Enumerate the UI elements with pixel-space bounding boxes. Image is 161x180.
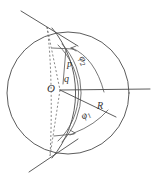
secant-line-lower-left xyxy=(29,139,78,172)
tick-upper-chord xyxy=(52,48,73,49)
label-charge-q: q xyxy=(64,74,69,84)
label-center-O: O xyxy=(47,83,55,94)
angle-arc-phi2 xyxy=(72,48,104,92)
geometry-diagram xyxy=(0,0,161,180)
label-radius-R: R xyxy=(97,101,103,111)
label-point-p: p xyxy=(67,59,72,69)
horizontal-axis-line xyxy=(60,89,150,90)
outer-sphere-circle xyxy=(7,32,129,154)
figure-container: O q p R φ2 φ1 xyxy=(0,0,161,180)
